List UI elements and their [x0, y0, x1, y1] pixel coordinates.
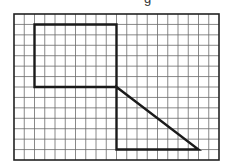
grid-diagram: [0, 0, 229, 167]
